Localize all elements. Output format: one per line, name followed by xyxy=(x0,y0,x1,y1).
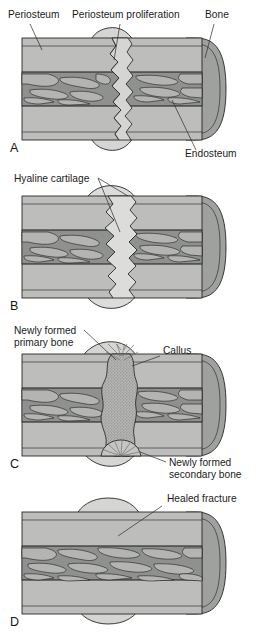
trabeculae-right-b xyxy=(134,232,202,262)
panel-a: Periosteum Periosteum proliferation Bone… xyxy=(8,9,237,159)
label-newly-formed-primary-bone-line1: Newly formed xyxy=(14,325,77,336)
figure-canvas: Periosteum Periosteum proliferation Bone… xyxy=(0,0,257,636)
panel-letter-a: A xyxy=(10,141,19,155)
panel-d: Healed fracture D xyxy=(10,493,237,629)
panel-letter-d: D xyxy=(10,615,19,629)
label-periosteum-proliferation: Periosteum proliferation xyxy=(72,9,180,20)
fracture-healing-figure: Periosteum Periosteum proliferation Bone… xyxy=(0,0,257,636)
trabeculae-right-a xyxy=(134,74,202,104)
label-hyaline-cartilage: Hyaline cartilage xyxy=(14,173,90,184)
panel-c: Newly formed primary bone Callus Newly f… xyxy=(10,325,242,480)
panel-letter-c: C xyxy=(10,457,19,471)
label-callus: Callus xyxy=(163,345,191,356)
label-healed-fracture: Healed fracture xyxy=(167,493,237,504)
trabeculae-right-c xyxy=(136,390,202,420)
panel-b: Hyaline cartilage B xyxy=(10,173,226,313)
label-newly-formed-primary-bone-line2: primary bone xyxy=(14,337,74,348)
panel-letter-b: B xyxy=(10,299,18,313)
label-newly-formed-secondary-bone-line1: Newly formed xyxy=(169,457,232,468)
label-bone: Bone xyxy=(205,9,229,20)
label-periosteum: Periosteum xyxy=(8,9,60,20)
label-newly-formed-secondary-bone-line2: secondary bone xyxy=(169,469,242,480)
label-endosteum: Endosteum xyxy=(185,148,237,159)
